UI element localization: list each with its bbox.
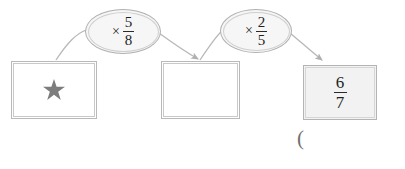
arrow-oval-first-to-box-middle — [159, 33, 198, 59]
fraction-result: 6 7 — [334, 74, 347, 111]
oval-second-content: × 2 5 — [245, 15, 267, 48]
oval-first-content: × 5 8 — [112, 15, 134, 48]
fraction-second: 2 5 — [256, 15, 267, 48]
connector-box-start-to-oval-first — [56, 30, 86, 60]
fraction-result-numerator: 6 — [336, 74, 345, 91]
fraction-first: 5 8 — [123, 15, 134, 48]
box-start-content — [12, 62, 96, 118]
box-start[interactable] — [11, 61, 97, 119]
box-result[interactable]: 6 7 — [303, 65, 377, 120]
fraction-first-denominator: 8 — [124, 33, 134, 48]
star-icon — [43, 79, 65, 101]
multiply-sign-first: × — [112, 25, 120, 39]
fraction-result-denominator: 7 — [336, 94, 345, 111]
box-result-content: 6 7 — [304, 66, 376, 119]
fraction-second-denominator: 5 — [257, 33, 267, 48]
stray-parenthesis-mark: ( — [297, 128, 304, 149]
fraction-flow-diagram: × 5 8 × 2 5 6 — [0, 0, 405, 169]
operator-oval-first[interactable]: × 5 8 — [85, 9, 161, 54]
fraction-first-numerator: 5 — [124, 15, 134, 30]
connector-box-middle-to-oval-second — [200, 31, 222, 60]
arrow-oval-second-to-box-result — [290, 33, 322, 60]
box-middle-answer[interactable] — [161, 61, 240, 119]
fraction-second-numerator: 2 — [257, 15, 267, 30]
box-middle-value — [162, 62, 239, 118]
operator-oval-second[interactable]: × 2 5 — [220, 9, 292, 53]
multiply-sign-second: × — [245, 24, 253, 38]
